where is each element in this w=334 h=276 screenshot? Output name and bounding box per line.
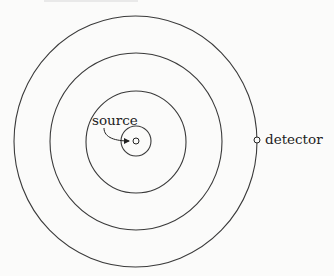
detector-label: detector bbox=[265, 131, 323, 147]
cut-off-text-remnant bbox=[44, 0, 138, 2]
source-point-icon bbox=[133, 138, 139, 144]
detector-point-icon bbox=[254, 137, 260, 143]
wavefront-diagram: source detector bbox=[0, 0, 334, 276]
source-label: source bbox=[92, 112, 138, 128]
